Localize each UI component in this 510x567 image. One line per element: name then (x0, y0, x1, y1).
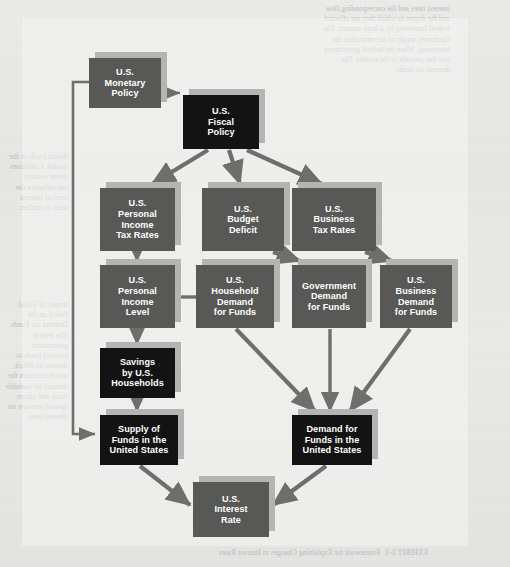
node-label-monetary-policy: U.S.MonetaryPolicy (105, 67, 146, 99)
node-label-personal-income-level: U.S.PersonalIncomeLevel (118, 275, 157, 317)
flowchart-nodes: U.S.MonetaryPolicyU.S.FiscalPolicyU.S.Pe… (0, 0, 510, 567)
node-label-fiscal-policy: U.S.FiscalPolicy (207, 106, 234, 138)
node-label-line: Tax Rates (313, 225, 356, 236)
node-label-line: Personal (116, 209, 159, 220)
node-interest-rate[interactable]: U.S.InterestRate (193, 482, 269, 537)
node-label-line: United States (303, 445, 362, 456)
node-label-line: Budget (227, 214, 259, 225)
node-government-demand-for-funds[interactable]: GovernmentDemandfor Funds (292, 265, 366, 328)
node-label-line: Funds in the (110, 435, 169, 446)
node-fiscal-policy[interactable]: U.S.FiscalPolicy (183, 95, 259, 149)
node-label-supply-of-funds: Supply ofFunds in theUnited States (110, 424, 169, 456)
node-supply-of-funds[interactable]: Supply ofFunds in theUnited States (100, 415, 178, 465)
node-label-government-demand-for-funds: GovernmentDemandfor Funds (302, 281, 356, 313)
node-label-line: Personal (118, 286, 157, 297)
node-label-line: for Funds (302, 302, 356, 313)
node-personal-income-level[interactable]: U.S.PersonalIncomeLevel (100, 265, 175, 328)
node-household-demand-for-funds[interactable]: U.S.HouseholdDemandfor Funds (196, 265, 274, 328)
node-label-line: U.S. (116, 198, 159, 209)
node-label-line: Demand (211, 297, 258, 308)
node-label-line: Policy (207, 127, 234, 138)
node-label-line: Business (395, 286, 437, 297)
node-savings-by-households[interactable]: Savingsby U.S.Households (100, 348, 175, 398)
node-label-line: Level (118, 307, 157, 318)
node-label-line: Households (111, 378, 164, 389)
node-label-line: U.S. (118, 275, 157, 286)
node-label-line: Demand (302, 291, 356, 302)
node-label-household-demand-for-funds: U.S.HouseholdDemandfor Funds (211, 275, 258, 317)
node-label-interest-rate: U.S.InterestRate (214, 494, 247, 526)
node-label-demand-for-funds: Demand forFunds in theUnited States (303, 424, 362, 456)
node-label-line: Income (118, 297, 157, 308)
node-label-line: U.S. (207, 106, 234, 117)
node-business-demand-for-funds[interactable]: U.S.BusinessDemandfor Funds (380, 265, 452, 328)
node-label-budget-deficit: U.S.BudgetDeficit (227, 204, 259, 236)
node-label-line: Monetary (105, 78, 146, 89)
node-label-line: for Funds (211, 307, 258, 318)
node-business-tax-rates[interactable]: U.S.BusinessTax Rates (292, 188, 376, 251)
node-label-line: Business (313, 214, 356, 225)
node-label-line: by U.S. (111, 368, 164, 379)
node-personal-income-tax-rates[interactable]: U.S.PersonalIncomeTax Rates (100, 188, 175, 251)
node-label-personal-income-tax-rates: U.S.PersonalIncomeTax Rates (116, 198, 159, 240)
node-label-line: Demand for (303, 424, 362, 435)
node-label-line: Rate (214, 515, 247, 526)
node-label-line: U.S. (211, 275, 258, 286)
node-label-line: Household (211, 286, 258, 297)
node-label-line: Fiscal (207, 117, 234, 128)
node-label-line: U.S. (313, 204, 356, 215)
node-label-business-tax-rates: U.S.BusinessTax Rates (313, 204, 356, 236)
node-label-line: United States (110, 445, 169, 456)
node-label-line: Tax Rates (116, 230, 159, 241)
node-label-line: Funds in the (303, 435, 362, 446)
node-label-line: Savings (111, 357, 164, 368)
node-label-business-demand-for-funds: U.S.BusinessDemandfor Funds (395, 275, 437, 317)
node-label-line: Interest (214, 504, 247, 515)
node-demand-for-funds[interactable]: Demand forFunds in theUnited States (292, 415, 372, 465)
node-label-line: Income (116, 220, 159, 231)
node-monetary-policy[interactable]: U.S.MonetaryPolicy (89, 58, 161, 108)
node-budget-deficit[interactable]: U.S.BudgetDeficit (202, 188, 284, 251)
node-label-line: Supply of (110, 424, 169, 435)
node-label-line: U.S. (227, 204, 259, 215)
node-label-line: for Funds (395, 307, 437, 318)
node-label-line: Government (302, 281, 356, 292)
node-label-line: U.S. (214, 494, 247, 505)
node-label-line: Deficit (227, 225, 259, 236)
node-label-line: Policy (105, 88, 146, 99)
node-label-line: U.S. (105, 67, 146, 78)
node-label-line: U.S. (395, 275, 437, 286)
node-label-line: Demand (395, 297, 437, 308)
node-label-savings-by-households: Savingsby U.S.Households (111, 357, 164, 389)
